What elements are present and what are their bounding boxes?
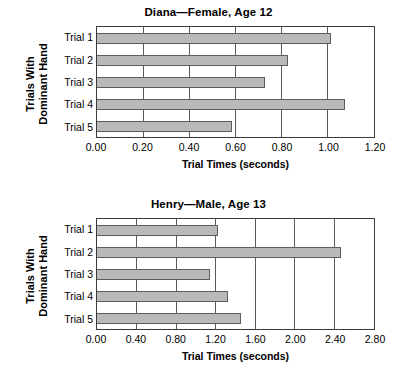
bar-row xyxy=(97,49,374,71)
x-axis-tick-label: 0.00 xyxy=(86,141,106,153)
x-axis-tick-label: 2.80 xyxy=(365,333,385,345)
category-tick-label: Trial 2 xyxy=(54,48,96,70)
category-tick-label: Trial 1 xyxy=(54,218,96,240)
x-axis-tick-label: 0.20 xyxy=(132,141,152,153)
category-tick-label: Trial 3 xyxy=(54,71,96,93)
y-axis-label-line-2: Dominant Hand xyxy=(37,235,50,316)
category-tick-label: Trial 2 xyxy=(54,240,96,262)
bar-row xyxy=(97,71,374,93)
bar-trial-4 xyxy=(96,291,228,302)
bar-row xyxy=(97,219,374,241)
bar-row xyxy=(97,263,374,285)
bar-trial-2 xyxy=(96,247,341,258)
category-tick-labels: Trial 1 Trial 2 Trial 3 Trial 4 Trial 5 xyxy=(54,218,96,330)
x-axis-tick-label: 1.20 xyxy=(365,141,385,153)
bar-row xyxy=(97,307,374,329)
x-axis-tick-label: 0.60 xyxy=(225,141,245,153)
x-axis-label: Trial Times (seconds) xyxy=(96,158,375,170)
category-tick-label: Trial 4 xyxy=(54,285,96,307)
bar-trial-2 xyxy=(96,55,288,66)
bar-row xyxy=(97,285,374,307)
bar-row xyxy=(97,241,374,263)
x-axis-tick-labels: 0.000.400.801.201.602.002.402.80 xyxy=(96,333,375,347)
x-axis-tick-label: 0.80 xyxy=(272,141,292,153)
x-axis-tick-labels: 0.000.200.400.600.801.001.20 xyxy=(96,141,375,155)
x-axis-tick-label: 1.20 xyxy=(205,333,225,345)
bar-row xyxy=(97,115,374,137)
chart-figure-diana: Diana—Female, Age 12 Trials With Dominan… xyxy=(0,0,417,195)
x-axis-tick-label: 0.40 xyxy=(179,141,199,153)
y-axis-label-line-2: Dominant Hand xyxy=(37,43,50,124)
x-axis-tick-label: 0.00 xyxy=(86,333,106,345)
x-axis-tick-label: 0.40 xyxy=(126,333,146,345)
x-axis-tick-label: 0.80 xyxy=(165,333,185,345)
category-tick-label: Trial 4 xyxy=(54,93,96,115)
bar-series xyxy=(97,219,374,329)
bar-series xyxy=(97,27,374,137)
category-tick-label: Trial 3 xyxy=(54,263,96,285)
chart-title: Diana—Female, Age 12 xyxy=(0,6,417,18)
bar-trial-3 xyxy=(96,77,265,88)
x-axis-tick-label: 2.40 xyxy=(325,333,345,345)
plot-area xyxy=(96,26,375,138)
y-axis-label-line-1: Trials With xyxy=(24,43,37,124)
bar-trial-1 xyxy=(96,225,218,236)
bar-trial-3 xyxy=(96,269,210,280)
category-tick-label: Trial 5 xyxy=(54,116,96,138)
x-axis-tick-label: 1.60 xyxy=(245,333,265,345)
x-axis-tick-label: 1.00 xyxy=(318,141,338,153)
bar-trial-1 xyxy=(96,33,331,44)
bar-trial-4 xyxy=(96,99,345,110)
chart-figure-henry: Henry—Male, Age 13 Trials With Dominant … xyxy=(0,192,417,385)
plot-area xyxy=(96,218,375,330)
bar-trial-5 xyxy=(96,121,232,132)
bar-trial-5 xyxy=(96,313,241,324)
bar-row xyxy=(97,93,374,115)
chart-title: Henry—Male, Age 13 xyxy=(0,198,417,210)
x-axis-label: Trial Times (seconds) xyxy=(96,350,375,362)
category-tick-label: Trial 5 xyxy=(54,308,96,330)
x-axis-tick-label: 2.00 xyxy=(285,333,305,345)
category-tick-labels: Trial 1 Trial 2 Trial 3 Trial 4 Trial 5 xyxy=(54,26,96,138)
y-axis-label-line-1: Trials With xyxy=(24,235,37,316)
category-tick-label: Trial 1 xyxy=(54,26,96,48)
bar-row xyxy=(97,27,374,49)
